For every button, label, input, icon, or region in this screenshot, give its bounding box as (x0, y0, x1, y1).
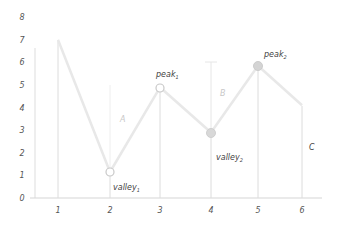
x-tick-label: 3 (157, 206, 162, 215)
valley-2-label: valley2 (216, 153, 243, 163)
x-tick-labels: 123456 (55, 206, 304, 215)
valley-2-marker (207, 129, 216, 138)
y-tick-label: 2 (19, 149, 24, 158)
valley-1-marker (106, 168, 114, 176)
y-tick-label: 7 (19, 36, 25, 45)
x-tick-label: 4 (208, 206, 213, 215)
peak-2-label: peak2 (263, 50, 287, 60)
y-tick-label: 4 (19, 104, 24, 113)
valley-1-label: valley1 (113, 183, 140, 193)
line-chart: 012345678 123456 valley1 peak1 valley2 p… (0, 0, 340, 227)
y-tick-labels: 012345678 (19, 13, 25, 203)
y-tick-label: 6 (19, 58, 24, 67)
y-tick-label: 3 (19, 126, 24, 135)
y-tick-label: 5 (19, 81, 24, 90)
y-tick-label: 8 (19, 13, 24, 22)
peak-2-marker (254, 62, 263, 71)
span-c-label: C (309, 143, 315, 152)
data-line (58, 40, 302, 172)
peak-1-marker (156, 84, 164, 92)
y-tick-label: 1 (19, 171, 24, 180)
x-tick-label: 2 (107, 206, 112, 215)
peak-1-label: peak1 (155, 70, 179, 80)
span-b-label: B (220, 89, 226, 98)
span-a-label: A (119, 115, 125, 124)
span-b (205, 62, 217, 133)
drop-lines (58, 40, 302, 198)
x-tick-label: 6 (299, 206, 304, 215)
x-tick-label: 5 (255, 206, 260, 215)
x-tick-label: 1 (55, 206, 60, 215)
y-tick-label: 0 (19, 194, 24, 203)
